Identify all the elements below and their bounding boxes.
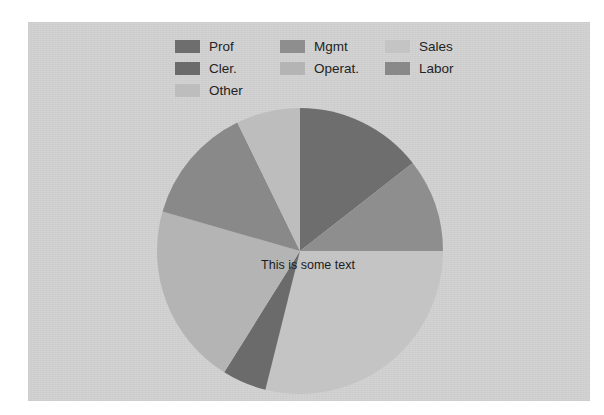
legend-swatch-icon xyxy=(175,40,200,53)
legend-item-label: Mgmt xyxy=(314,40,348,54)
pie-chart-figure: This is some text ProfMgmtSalesCler.Oper… xyxy=(0,0,604,415)
legend: ProfMgmtSalesCler.Operat.LaborOther xyxy=(175,36,485,101)
pie-chart: This is some text xyxy=(157,108,443,394)
pie-slice-group xyxy=(157,108,443,394)
legend-item-mgmt[interactable]: Mgmt xyxy=(280,36,376,57)
legend-item-label: Prof xyxy=(209,40,234,54)
legend-item-operat[interactable]: Operat. xyxy=(280,58,376,79)
legend-swatch-icon xyxy=(280,40,305,53)
legend-item-label: Cler. xyxy=(209,62,237,76)
legend-item-prof[interactable]: Prof xyxy=(175,36,271,57)
legend-item-other[interactable]: Other xyxy=(175,80,271,101)
chart-plot-area: This is some text ProfMgmtSalesCler.Oper… xyxy=(28,22,590,401)
legend-swatch-icon xyxy=(280,62,305,75)
legend-item-sales[interactable]: Sales xyxy=(385,36,481,57)
legend-swatch-icon xyxy=(385,40,410,53)
legend-item-labor[interactable]: Labor xyxy=(385,58,481,79)
pie-svg xyxy=(157,108,443,394)
legend-swatch-icon xyxy=(385,62,410,75)
legend-swatch-icon xyxy=(175,84,200,97)
legend-item-label: Labor xyxy=(419,62,454,76)
legend-swatch-icon xyxy=(175,62,200,75)
legend-item-cler[interactable]: Cler. xyxy=(175,58,271,79)
legend-item-label: Operat. xyxy=(314,62,359,76)
legend-item-label: Other xyxy=(209,84,243,98)
legend-item-label: Sales xyxy=(419,40,453,54)
